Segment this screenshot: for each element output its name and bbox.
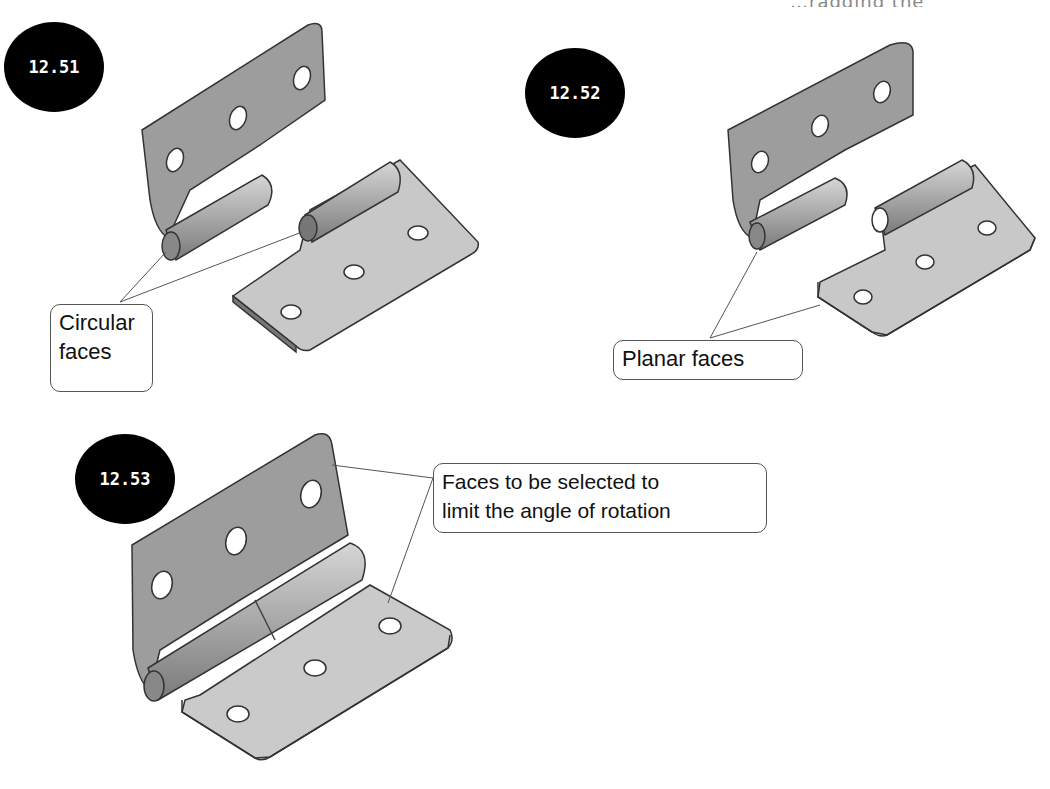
figure-badge-12-52: 12.52 — [525, 48, 625, 138]
figure-badge-12-53: 12.53 — [75, 434, 175, 524]
hinge-12-53 — [132, 434, 452, 760]
figure-badge-12-51: 12.51 — [4, 22, 104, 112]
hinge-12-52 — [728, 43, 1035, 336]
callout-line-2: limit the angle of rotation — [442, 496, 758, 525]
callout-circular-faces: Circular faces — [50, 304, 153, 392]
callout-planar-faces: Planar faces — [613, 340, 803, 380]
hinge-illustrations — [0, 0, 1050, 789]
callout-line-1: Faces to be selected to — [442, 467, 758, 496]
hinge-12-51 — [142, 24, 478, 352]
callout-line-1: Circular — [59, 308, 144, 337]
callout-rotation-limit-faces: Faces to be selected to limit the angle … — [433, 463, 767, 533]
callout-line-1: Planar faces — [622, 344, 794, 373]
callout-line-2: faces — [59, 337, 144, 366]
